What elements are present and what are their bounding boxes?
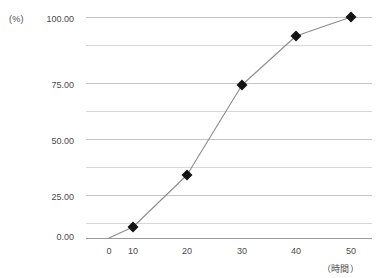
x-axis-tick-label: 30 (222, 246, 262, 256)
series-line (109, 17, 351, 238)
x-axis-tick-label: 50 (331, 246, 371, 256)
x-axis-tick-label: 40 (276, 246, 316, 256)
line-chart: (%) 100.00 75.00 50.00 25.00 0.00 (0, 0, 384, 278)
x-axis-tick-label: 20 (167, 246, 207, 256)
x-axis-tick-label: 10 (113, 246, 153, 256)
x-axis-unit-label: （時間） (322, 262, 359, 275)
chart-canvas (0, 0, 384, 278)
gridlines-minor (86, 46, 372, 224)
